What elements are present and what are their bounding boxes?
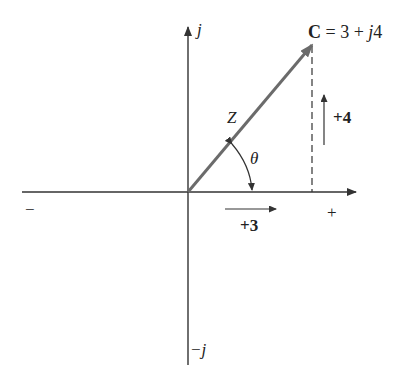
phasor-equation-rest: = 3 +: [321, 22, 368, 42]
magnitude-label: Z: [227, 108, 236, 128]
angle-arc: [232, 144, 252, 190]
negative-real-axis-label: −: [25, 200, 35, 220]
negative-imag-text: −j: [190, 340, 206, 359]
complex-plane-diagram: [0, 0, 405, 382]
positive-real-axis-label: +: [327, 203, 337, 223]
phasor-equation: C = 3 + j4: [308, 22, 382, 43]
positive-imag-axis-label: j: [197, 20, 202, 40]
angle-label: θ: [250, 149, 258, 169]
imag-component-label: +4: [333, 108, 351, 128]
phasor-imag-value: 4: [373, 22, 382, 42]
real-component-label: +3: [240, 216, 258, 236]
phasor-arrow: [188, 45, 312, 192]
phasor-name: C: [308, 22, 321, 42]
negative-imag-axis-label: −j: [190, 340, 206, 360]
